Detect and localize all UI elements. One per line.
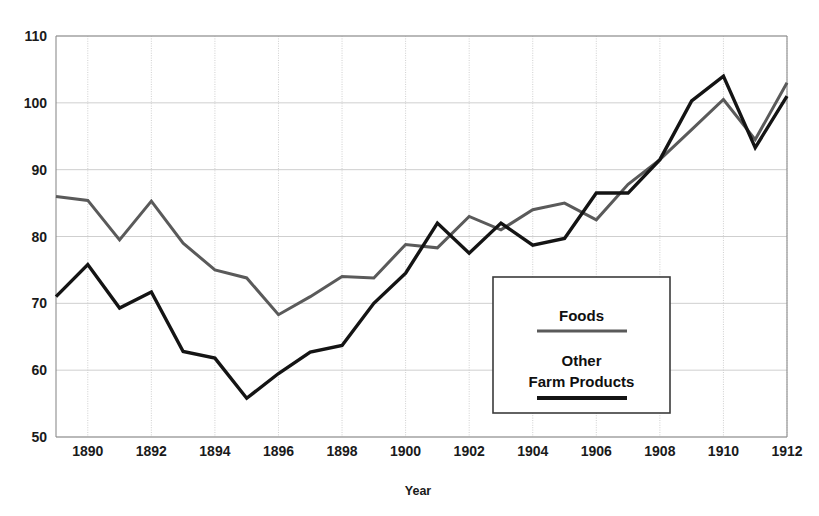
legend-background [493,277,670,413]
y-axis-tick-label: 60 [31,362,47,378]
x-axis-title: Year [405,484,432,498]
x-axis-tick-label: 1890 [72,443,103,459]
gridlines [56,36,787,437]
y-axis-tick-label: 50 [31,429,47,445]
legend: Foods Other Farm Products [493,277,670,413]
x-axis-tick-label: 1896 [263,443,294,459]
x-axis-tick-label: 1904 [517,443,548,459]
y-axis-tick-label: 70 [31,295,47,311]
x-axis-tick-label: 1894 [199,443,230,459]
legend-item-foods-label: Foods [559,307,604,324]
x-axis-tick-label: 1900 [390,443,421,459]
x-axis-tick-label: 1898 [326,443,357,459]
legend-item-other-label-line2: Farm Products [529,373,635,390]
y-axis-tick-labels: 5060708090100110 [24,28,48,445]
data-series-layer [56,76,787,398]
series-line-foods [56,83,787,315]
legend-item-other-label-line1: Other [561,352,601,369]
y-axis-tick-label: 80 [31,229,47,245]
x-axis-tick-label: 1892 [136,443,167,459]
y-axis-tick-label: 110 [24,28,47,44]
line-chart: 5060708090100110 18901892189418961898190… [0,0,819,516]
x-axis-tick-label: 1910 [708,443,739,459]
x-axis-tick-label: 1912 [771,443,802,459]
x-axis-tick-labels: 1890189218941896189819001902190419061908… [72,443,803,459]
x-axis-tick-label: 1908 [644,443,675,459]
y-axis-tick-label: 100 [24,95,48,111]
x-axis-tick-label: 1902 [454,443,485,459]
chart-container: 5060708090100110 18901892189418961898190… [0,0,819,516]
series-line-other-farm-products [56,76,787,398]
x-axis-tick-label: 1906 [581,443,612,459]
y-axis-tick-label: 90 [31,162,47,178]
